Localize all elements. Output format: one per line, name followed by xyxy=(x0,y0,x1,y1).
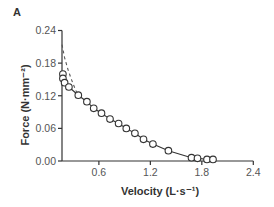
data-point-marker xyxy=(90,105,97,112)
force-velocity-chart: 0.000.060.120.180.240.61.21.82.4 xyxy=(0,0,274,207)
data-point-marker xyxy=(84,98,91,105)
data-point-marker xyxy=(123,125,130,132)
data-series xyxy=(60,45,217,163)
data-point-marker xyxy=(98,110,105,117)
y-tick-label: 0.18 xyxy=(36,57,57,69)
measured-line xyxy=(63,74,213,159)
data-point-marker xyxy=(66,84,73,91)
x-tick-label: 1.8 xyxy=(195,166,210,178)
y-tick-label: 0.12 xyxy=(36,90,57,102)
data-point-marker xyxy=(115,120,122,127)
data-point-marker xyxy=(150,141,157,148)
data-point-marker xyxy=(194,155,201,162)
y-tick-label: 0.00 xyxy=(36,155,57,167)
y-tick-label: 0.24 xyxy=(36,24,57,36)
data-point-marker xyxy=(75,92,82,99)
data-point-marker xyxy=(165,147,172,154)
x-tick-label: 0.6 xyxy=(92,166,107,178)
x-tick-label: 1.2 xyxy=(143,166,158,178)
axes: 0.000.060.120.180.240.61.21.82.4 xyxy=(36,24,261,178)
data-point-marker xyxy=(107,116,114,123)
data-point-marker xyxy=(210,156,217,163)
y-tick-label: 0.06 xyxy=(36,122,57,134)
data-point-marker xyxy=(132,130,139,137)
x-tick-label: 2.4 xyxy=(246,166,261,178)
data-point-marker xyxy=(140,136,147,143)
